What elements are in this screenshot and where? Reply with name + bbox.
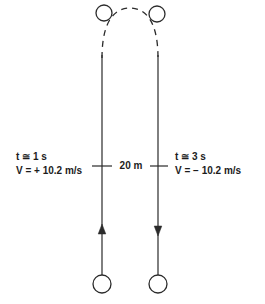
right-velocity-label: V = − 10.2 m/s	[175, 164, 241, 178]
left-annotation: t ≅ 1 s V = + 10.2 m/s	[16, 150, 82, 178]
ball-start-left	[93, 275, 111, 293]
arrowhead-up	[98, 224, 106, 234]
ball-apex-left	[96, 5, 112, 21]
right-time-label: t ≅ 3 s	[175, 150, 241, 164]
arrowhead-down	[154, 226, 162, 236]
ball-end-right	[149, 275, 167, 293]
right-annotation: t ≅ 3 s V = − 10.2 m/s	[175, 150, 241, 178]
ball-apex-right	[149, 6, 165, 22]
left-velocity-label: V = + 10.2 m/s	[16, 164, 82, 178]
distance-label: 20 m	[112, 159, 150, 173]
left-time-label: t ≅ 1 s	[16, 150, 82, 164]
projectile-motion-diagram: t ≅ 1 s V = + 10.2 m/s t ≅ 3 s V = − 10.…	[0, 0, 265, 304]
